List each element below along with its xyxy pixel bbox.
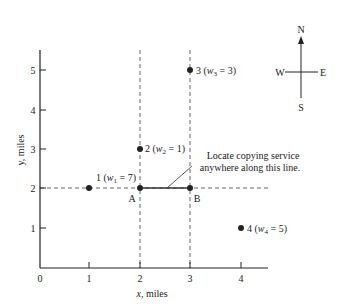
y-tick-label: 2	[31, 183, 36, 194]
y-tick-label: 3	[31, 144, 36, 155]
location-diagram: 1 2 3 4 5 0 1 2 3 4 x, miles y, miles 1 …	[0, 0, 338, 306]
annotation-line-2: anywhere along this line.	[200, 162, 301, 173]
point-a-label: A	[128, 193, 136, 204]
y-tick-label: 1	[31, 223, 36, 234]
point-b-label: B	[194, 193, 201, 204]
point-1-label: 1 (w1 = 7)	[96, 172, 136, 185]
x-tick-label: 4	[239, 273, 244, 284]
point-1-marker	[86, 185, 92, 191]
compass-west-label: W	[275, 67, 285, 78]
compass-east-label: E	[320, 67, 326, 78]
compass-north-label: N	[297, 24, 304, 35]
x-ticks	[89, 262, 241, 268]
point-3-label: 3 (w3 = 3)	[196, 65, 236, 78]
point-4-label: 4 (w4 = 5)	[247, 223, 287, 236]
y-tick-label: 5	[31, 65, 36, 76]
point-b-marker	[187, 185, 193, 191]
y-ticks	[40, 70, 46, 228]
annotation-leader-line	[167, 166, 192, 188]
x-tick-label: 3	[188, 273, 193, 284]
point-a-marker	[137, 185, 143, 191]
y-axis-title: y, miles	[15, 134, 26, 165]
point-2-marker	[137, 146, 143, 152]
x-tick-label: 0	[38, 273, 43, 284]
x-tick-label: 1	[87, 273, 92, 284]
compass-icon	[285, 36, 318, 98]
x-axis-title: x, miles	[135, 288, 167, 299]
compass-south-label: S	[298, 102, 304, 113]
annotation-line-1: Locate copying service	[207, 150, 300, 161]
point-3-marker	[187, 67, 193, 73]
point-4-marker	[238, 225, 244, 231]
x-tick-label: 2	[138, 273, 143, 284]
y-tick-label: 4	[31, 105, 36, 116]
point-2-label: 2 (w2 = 1)	[145, 143, 185, 156]
